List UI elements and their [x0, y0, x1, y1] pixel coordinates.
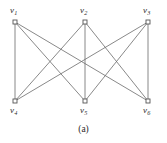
graph-figure: v1v2v3v4v5v6 (a)	[0, 0, 167, 143]
graph-vertex-v4[interactable]	[13, 99, 17, 103]
graph-canvas	[0, 0, 167, 143]
graph-vertex-v5[interactable]	[83, 99, 87, 103]
vertex-label-v2: v2	[80, 6, 87, 15]
graph-vertex-v3[interactable]	[146, 20, 150, 24]
graph-vertex-v6[interactable]	[146, 99, 150, 103]
vertex-label-v1: v1	[10, 6, 17, 15]
vertex-label-subscript-v4: 4	[14, 109, 17, 116]
vertex-label-v3: v3	[143, 6, 150, 15]
vertex-label-subscript-v6: 6	[147, 109, 150, 116]
vertex-label-subscript-v5: 5	[84, 109, 87, 116]
graph-vertex-v1[interactable]	[13, 20, 17, 24]
edges-group	[15, 22, 148, 101]
vertex-label-v6: v6	[143, 106, 150, 115]
vertex-label-subscript-v3: 3	[147, 9, 150, 16]
vertex-label-subscript-v1: 1	[14, 9, 17, 16]
graph-vertex-v2[interactable]	[83, 20, 87, 24]
figure-caption: (a)	[0, 124, 167, 134]
vertex-label-v4: v4	[10, 106, 17, 115]
vertex-label-subscript-v2: 2	[84, 9, 87, 16]
vertex-label-v5: v5	[80, 106, 87, 115]
